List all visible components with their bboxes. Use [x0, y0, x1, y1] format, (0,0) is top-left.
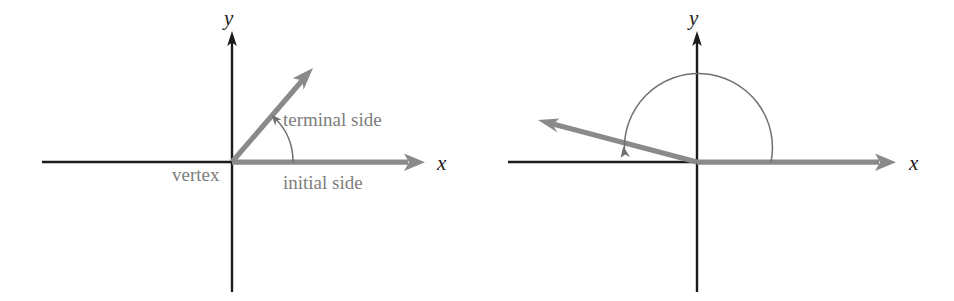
left-initial-side-label: initial side	[283, 172, 363, 193]
left-y-axis-label: y	[222, 6, 234, 30]
left-panel-positive-angle: x y vertex terminal side initial side	[42, 6, 447, 292]
left-terminal-side-label: terminal side	[283, 109, 382, 130]
angles-standard-position-figure: x y vertex terminal side initial side	[0, 0, 954, 301]
right-angle-arc-arrow-icon	[621, 147, 630, 158]
right-panel-negative-angle: x y	[508, 6, 919, 292]
left-x-axis-label: x	[436, 151, 447, 175]
right-y-axis-label: y	[687, 6, 699, 30]
figure-canvas: x y vertex terminal side initial side	[0, 0, 954, 301]
left-vertex-label: vertex	[172, 164, 220, 185]
right-x-axis-label: x	[908, 151, 919, 175]
